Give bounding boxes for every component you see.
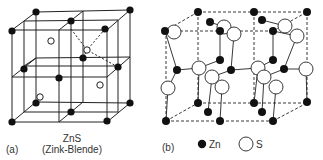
panel-a-subtitle: (Zink-Blende) — [38, 144, 106, 155]
panel-a-title: ZnS — [44, 133, 100, 144]
panel-a-lattice — [12, 10, 130, 122]
panel-b-label: (b) — [162, 142, 174, 153]
legend-s-symbol — [239, 137, 253, 151]
panel-a-label: (a) — [6, 144, 18, 155]
panel-b-s-atoms — [161, 19, 313, 95]
legend-s-label: S — [256, 139, 263, 150]
legend-zn-symbol — [198, 140, 206, 148]
legend-zn-label: Zn — [209, 139, 221, 150]
panel-a-s-atoms — [37, 38, 103, 100]
